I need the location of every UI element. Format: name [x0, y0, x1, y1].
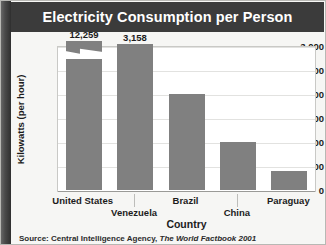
chart-body: Kilowatts (per hour) 3,0002,5002,0001,50…: [11, 32, 324, 243]
bar: [66, 41, 102, 190]
axis-baseline: [58, 191, 315, 192]
bar: [117, 44, 153, 190]
y-axis-title-label: Kilowatts (per hour): [16, 74, 27, 164]
source-prefix: Source: Central Intelligence Agency,: [19, 234, 157, 243]
chart-title: Electricity Consumption per Person: [43, 9, 293, 25]
chart-title-bar: Electricity Consumption per Person: [11, 2, 324, 32]
x-axis-title: Country: [57, 218, 316, 230]
plot-area: 12,2593,158: [58, 47, 315, 191]
x-tick-label: United States: [38, 195, 128, 206]
x-tick-label: China: [192, 207, 282, 218]
bar: [169, 94, 205, 190]
y-axis-title: Kilowatts (per hour): [13, 46, 29, 192]
plot-frame: 12,2593,158: [57, 46, 316, 192]
source-publication: The World Factbook 2001: [160, 234, 257, 243]
x-tick-connector: [237, 194, 238, 207]
left-accent-band: [0, 0, 11, 245]
bar: [220, 142, 256, 190]
x-tick-label: Brazil: [141, 195, 231, 206]
x-tick-connector: [134, 194, 135, 207]
x-tick-label: Paraguay: [243, 195, 326, 206]
bar: [271, 171, 307, 190]
bar-value-label: 3,158: [103, 32, 167, 43]
x-tick-label: Venezuela: [89, 207, 179, 218]
chart-figure: Electricity Consumption per Person Kilow…: [0, 0, 326, 245]
source-note: Source: Central Intelligence Agency, The…: [19, 234, 256, 243]
